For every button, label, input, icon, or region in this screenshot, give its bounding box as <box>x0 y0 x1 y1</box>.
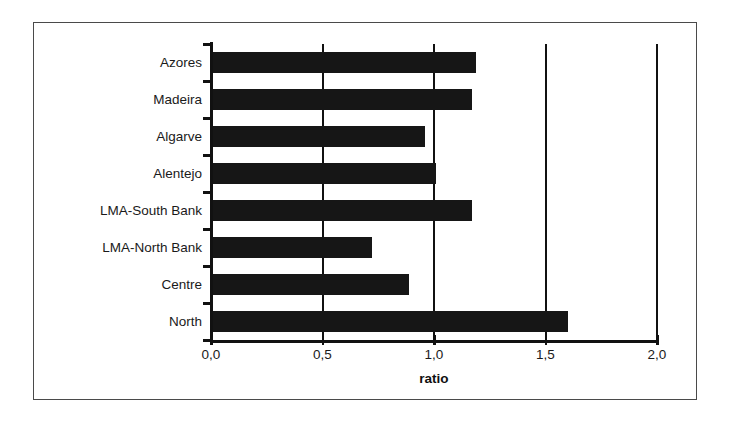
y-axis-tick <box>203 339 211 342</box>
y-axis-tick <box>203 117 211 120</box>
x-axis-tick <box>545 335 548 345</box>
y-axis-tick <box>203 228 211 231</box>
x-axis-tick <box>433 335 436 345</box>
bar <box>211 89 472 110</box>
x-axis-tick <box>322 335 325 345</box>
x-axis-tick-label: 2,0 <box>627 348 687 362</box>
bar <box>211 52 476 73</box>
bar <box>211 237 372 258</box>
gridline <box>545 44 547 340</box>
y-axis-tick <box>203 302 211 305</box>
y-axis-category-label: North <box>2 315 202 329</box>
y-axis-tick <box>203 154 211 157</box>
x-axis-title: ratio <box>211 372 657 386</box>
x-axis-tick-label: 1,0 <box>404 348 464 362</box>
y-axis-category-label: Azores <box>2 56 202 70</box>
y-axis-category-label: Alentejo <box>2 167 202 181</box>
y-axis-category-label: Centre <box>2 278 202 292</box>
plot-area <box>211 44 657 340</box>
bar <box>211 274 409 295</box>
y-axis-category-label: LMA-South Bank <box>2 204 202 218</box>
x-axis-tick <box>656 335 659 345</box>
y-axis-tick <box>203 43 211 46</box>
x-axis-tick-label: 0,5 <box>293 348 353 362</box>
y-axis-tick <box>203 191 211 194</box>
y-axis-category-labels: AzoresMadeiraAlgarveAlentejoLMA-South Ba… <box>0 0 202 430</box>
gridline <box>656 44 658 340</box>
x-axis-tick-label: 0,0 <box>181 348 241 362</box>
bar <box>211 200 472 221</box>
bar <box>211 126 425 147</box>
x-axis-tick-label: 1,5 <box>516 348 576 362</box>
bar <box>211 163 436 184</box>
y-axis-category-label: LMA-North Bank <box>2 241 202 255</box>
y-axis-tick <box>203 265 211 268</box>
y-axis-category-label: Madeira <box>2 93 202 107</box>
bar <box>211 311 568 332</box>
y-axis-category-label: Algarve <box>2 130 202 144</box>
y-axis-tick <box>203 80 211 83</box>
